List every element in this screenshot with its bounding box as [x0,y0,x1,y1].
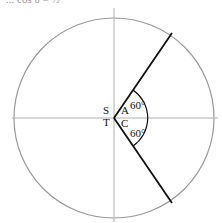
angle-label-upper: 60° [130,99,145,111]
quadrant-label-t: T [103,116,110,128]
quadrant-label-s: S [103,104,109,116]
clipped-title-text: ... cos θ = ½ [6,0,60,5]
cast-diagram: ... cos θ = ½ S T A C 60° 60° [0,0,222,223]
quadrant-label-c: C [121,117,128,129]
quadrant-label-a: A [121,104,129,116]
angle-label-lower: 60° [130,127,145,139]
